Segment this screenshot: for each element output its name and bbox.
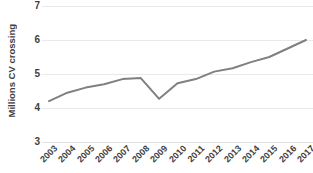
y-axis-title-text: Millions CV crossing — [6, 24, 17, 117]
x-tick-label-2016: 2016 — [277, 144, 298, 165]
y-tick-label-6: 6 — [34, 35, 40, 45]
series-polyline — [49, 40, 306, 101]
x-tick-label-2014: 2014 — [241, 144, 262, 165]
x-tick-label-2009: 2009 — [149, 144, 170, 165]
plot-wrapper: 34567 2003200420052006200720082009201020… — [24, 6, 313, 173]
y-tick-label-4: 4 — [34, 103, 40, 113]
x-tick-label-2006: 2006 — [94, 144, 115, 165]
x-tick-label-2003: 2003 — [39, 144, 60, 165]
x-tick-label-2004: 2004 — [57, 144, 78, 165]
y-axis-title: Millions CV crossing — [2, 0, 20, 142]
x-tick-label-2013: 2013 — [222, 144, 243, 165]
series-line-millions-cv-crossing — [42, 6, 313, 142]
y-tick-label-3: 3 — [34, 137, 40, 147]
plot-area — [42, 6, 313, 142]
x-tick-label-2012: 2012 — [204, 144, 225, 165]
x-tick-label-2007: 2007 — [112, 144, 133, 165]
line-chart: Millions CV crossing 34567 2003200420052… — [0, 0, 313, 173]
x-tick-label-2017: 2017 — [296, 144, 313, 165]
x-tick-label-2005: 2005 — [76, 144, 97, 165]
x-tick-label-2010: 2010 — [167, 144, 188, 165]
x-tick-label-2011: 2011 — [186, 144, 206, 164]
x-tick-label-2015: 2015 — [259, 144, 280, 165]
y-axis-tick-labels: 34567 — [24, 6, 40, 142]
x-tick-label-2008: 2008 — [131, 144, 152, 165]
y-tick-label-7: 7 — [34, 1, 40, 11]
x-axis-tick-labels: 2003200420052006200720082009201020112012… — [42, 142, 313, 173]
y-tick-label-5: 5 — [34, 69, 40, 79]
